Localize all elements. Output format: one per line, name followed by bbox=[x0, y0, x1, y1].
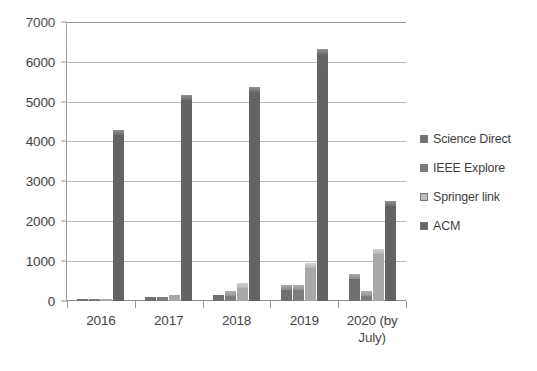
y-axis: 7000 6000 5000 4000 3000 2000 1000 0 bbox=[0, 0, 63, 371]
y-tick-label: 7000 bbox=[26, 15, 55, 30]
bar-2016-science-direct bbox=[77, 299, 88, 301]
legend-item-science-direct[interactable]: Science Direct bbox=[420, 124, 537, 153]
bar-2017-acm bbox=[181, 95, 192, 302]
bar-cap bbox=[281, 285, 292, 290]
legend-swatch-icon bbox=[420, 193, 428, 201]
bar-2020-by-july--springer-link bbox=[373, 249, 384, 301]
legend-swatch-icon bbox=[420, 164, 428, 172]
bar-cap bbox=[349, 274, 360, 279]
bar-2018-springer-link bbox=[237, 283, 248, 301]
legend-label: Springer link bbox=[433, 190, 500, 204]
y-tick-label: 3000 bbox=[26, 174, 55, 189]
legend-label: IEEE Explore bbox=[433, 161, 505, 175]
bar-group bbox=[77, 22, 124, 301]
bar-cap bbox=[237, 283, 248, 288]
x-tick-mark bbox=[406, 301, 407, 308]
bar-cap bbox=[361, 291, 372, 296]
bar-2017-springer-link bbox=[169, 295, 180, 301]
bar-group bbox=[349, 22, 396, 301]
bar-2016-springer-link bbox=[101, 299, 112, 301]
bar-cap bbox=[305, 263, 316, 268]
y-tick-label: 5000 bbox=[26, 95, 55, 110]
y-tick-label: 4000 bbox=[26, 134, 55, 149]
bar-cap bbox=[113, 130, 124, 135]
bar-chart: 7000 6000 5000 4000 3000 2000 1000 0 201… bbox=[0, 0, 537, 371]
bar-2019-ieee-explore bbox=[293, 285, 304, 301]
legend-item-springer-link[interactable]: Springer link bbox=[420, 182, 537, 211]
legend-label: ACM bbox=[433, 219, 460, 233]
plot-area bbox=[67, 22, 406, 301]
x-axis-label: 2020 (byJuly) bbox=[329, 312, 415, 346]
bar-2019-acm bbox=[317, 49, 328, 301]
bar-2019-springer-link bbox=[305, 263, 316, 301]
bar-2016-acm bbox=[113, 130, 124, 301]
bar-cap bbox=[225, 291, 236, 296]
bar-group bbox=[281, 22, 328, 301]
x-axis-label-line: 2020 (by bbox=[329, 312, 415, 329]
chart-legend: Science Direct IEEE Explore Springer lin… bbox=[420, 124, 537, 240]
y-tick-label: 6000 bbox=[26, 55, 55, 70]
legend-swatch-icon bbox=[420, 135, 428, 143]
bar-cap bbox=[317, 49, 328, 54]
bar-2020-by-july--ieee-explore bbox=[361, 291, 372, 301]
bar-2018-acm bbox=[249, 87, 260, 301]
y-tick-label: 1000 bbox=[26, 254, 55, 269]
bar-2020-by-july--science-direct bbox=[349, 274, 360, 301]
legend-swatch-icon bbox=[420, 222, 428, 230]
bar-2018-ieee-explore bbox=[225, 291, 236, 301]
x-axis-label-line: July) bbox=[329, 329, 415, 346]
legend-item-acm[interactable]: ACM bbox=[420, 211, 537, 240]
bar-2018-science-direct bbox=[213, 295, 224, 301]
legend-label: Science Direct bbox=[433, 132, 511, 146]
bar-cap bbox=[385, 201, 396, 206]
x-tick-mark bbox=[203, 301, 204, 308]
y-tick-label: 2000 bbox=[26, 214, 55, 229]
y-tick-label: 0 bbox=[48, 294, 55, 309]
bar-group bbox=[213, 22, 260, 301]
x-tick-mark bbox=[135, 301, 136, 308]
bar-2020-by-july--acm bbox=[385, 201, 396, 301]
bar-2017-science-direct bbox=[145, 297, 156, 301]
bar-cap bbox=[181, 95, 192, 100]
bar-2017-ieee-explore bbox=[157, 297, 168, 301]
x-tick-mark bbox=[270, 301, 271, 308]
legend-item-ieee-explore[interactable]: IEEE Explore bbox=[420, 153, 537, 182]
bar-2016-ieee-explore bbox=[89, 299, 100, 301]
x-tick-mark bbox=[67, 301, 68, 308]
bar-cap bbox=[293, 285, 304, 290]
bar-2019-science-direct bbox=[281, 285, 292, 301]
bar-cap bbox=[373, 249, 384, 254]
bar-cap bbox=[249, 87, 260, 92]
x-tick-mark bbox=[338, 301, 339, 308]
bar-group bbox=[145, 22, 192, 301]
